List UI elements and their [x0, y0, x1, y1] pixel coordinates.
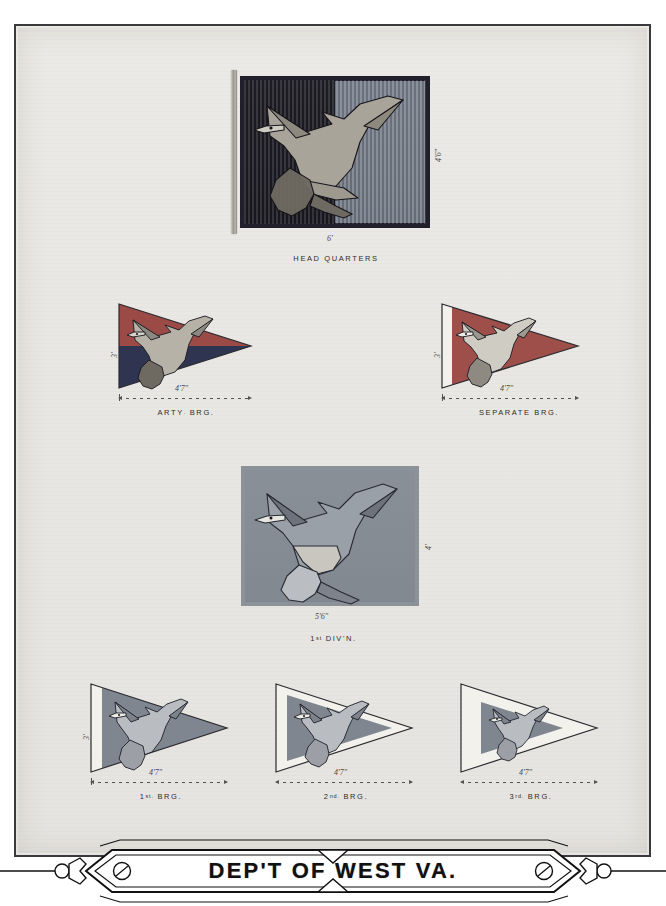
- caption-separate-brg: SEPARATE BRG.: [424, 408, 614, 417]
- caption-first-brg: 1st. BRG.: [71, 792, 251, 801]
- figure-head-quarters: 6' 4'6" HEAD QUARTERS: [231, 70, 441, 260]
- dimension-fly-label-separate-brg: 4'7": [500, 384, 513, 393]
- caption-first-division: 1st DIV'N.: [231, 634, 436, 643]
- dimension-line-separate-brg: [442, 398, 578, 399]
- guidon-second-brg: [274, 682, 414, 774]
- dimension-fly-label-arty-brg: 4'7": [175, 384, 188, 393]
- caption-suffix: nd.: [330, 793, 340, 799]
- banner-title: DEP'T OF WEST VA.: [0, 836, 666, 906]
- figure-third-brg: 4'7" 3rd. BRG.: [441, 682, 621, 802]
- guidon-arty-brg: [117, 302, 253, 390]
- figure-arty-brg: 3' 4'7" ARTY. BRG.: [101, 302, 271, 422]
- guidon-first-brg: [89, 682, 229, 774]
- figure-separate-brg: 3' 4'7" SEPARATE BRG.: [424, 302, 614, 422]
- dimension-fly-label-second-brg: 4'7": [334, 768, 347, 777]
- title-banner: DEP'T OF WEST VA.: [0, 836, 666, 906]
- eagle-icon: [241, 466, 419, 606]
- figure-second-brg: 4'7" 2nd. BRG.: [256, 682, 436, 802]
- flag-first-division: [241, 466, 419, 606]
- caption-tail: BRG.: [528, 792, 553, 801]
- flagstaff-head-quarters: [231, 70, 237, 234]
- caption-second-brg: 2nd. BRG.: [256, 792, 436, 801]
- figure-first-division: 5'6" 4' 1st DIV'N.: [231, 466, 436, 646]
- caption-head-quarters: HEAD QUARTERS: [231, 254, 441, 263]
- dimension-fly-label-first-brg: 4'7": [149, 768, 162, 777]
- dimension-tick: [119, 394, 120, 401]
- caption-arty-brg: ARTY. BRG.: [101, 408, 271, 417]
- dimension-tick: [442, 394, 443, 401]
- caption-third-brg: 3rd. BRG.: [441, 792, 621, 801]
- dimension-line-arty-brg: [119, 398, 251, 399]
- eagle-icon: [240, 76, 430, 228]
- caption-tail: DIV'N.: [326, 634, 357, 643]
- dimension-hoist-separate-brg: 3': [433, 352, 442, 358]
- dimension-line-third-brg: [461, 782, 597, 783]
- dimension-height-head-quarters: 4'6": [434, 149, 443, 162]
- caption-suffix: rd.: [515, 793, 524, 799]
- dimension-line-second-brg: [276, 782, 412, 783]
- dimension-fly-label-third-brg: 4'7": [519, 768, 532, 777]
- caption-tail: BRG.: [157, 792, 182, 801]
- flag-head-quarters: [240, 76, 430, 228]
- caption-tail: BRG.: [190, 408, 215, 417]
- caption-suffix: st: [316, 635, 322, 641]
- dimension-hoist-arty-brg: 3': [110, 352, 119, 358]
- plate-frame: 6' 4'6" HEAD QUARTERS: [14, 24, 651, 857]
- caption-suffix: .: [184, 409, 186, 415]
- flag-plate: 6' 4'6" HEAD QUARTERS: [0, 0, 666, 906]
- dimension-tick: [91, 778, 92, 785]
- caption-suffix: st.: [146, 793, 154, 799]
- guidon-separate-brg: [440, 302, 580, 390]
- dimension-hoist-first-brg: 3': [82, 734, 91, 740]
- guidon-third-brg: [459, 682, 599, 774]
- caption-tail: BRG.: [343, 792, 368, 801]
- dimension-width-head-quarters: 6': [327, 234, 333, 243]
- dimension-width-first-division: 5'6": [315, 612, 328, 621]
- caption-main: ARTY: [157, 408, 183, 417]
- figure-first-brg: 3' 4'7" 1st. BRG.: [71, 682, 251, 802]
- dimension-height-first-division: 4': [424, 544, 433, 550]
- dimension-line-first-brg: [91, 782, 227, 783]
